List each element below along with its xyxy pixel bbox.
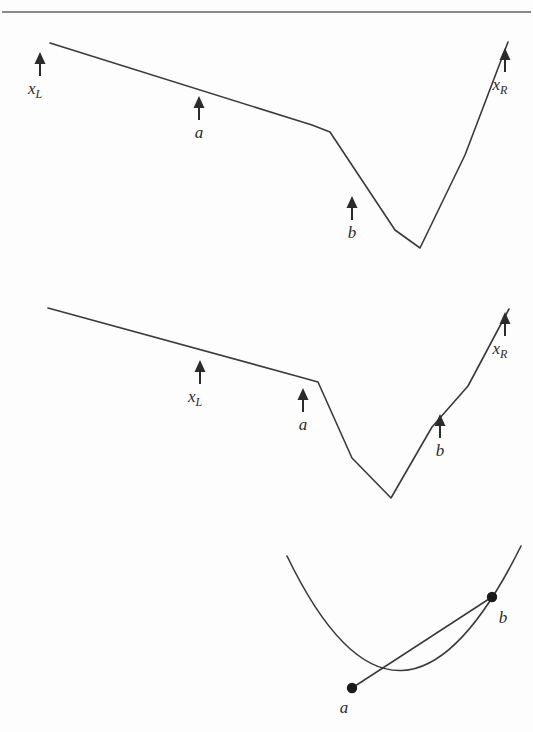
up-arrow-icon	[500, 312, 511, 324]
figure-canvas: xL a b xR	[0, 0, 533, 732]
panel3-label-b: b	[499, 608, 508, 627]
panel-convex-chord: a b	[287, 546, 521, 717]
panel1-label-a: a	[195, 123, 204, 142]
panel1-label-xr: xR	[492, 75, 509, 97]
panel2-arrow-xl	[195, 360, 206, 384]
up-arrow-icon	[347, 196, 358, 208]
panel1-arrow-xr	[500, 48, 511, 72]
panel-bracket-wide: xL a b xR	[27, 42, 511, 248]
panel2-arrow-xr	[500, 312, 511, 336]
up-arrow-icon	[195, 360, 206, 372]
panel3-convex-curve	[287, 546, 521, 671]
panel1-piecewise-curve	[50, 42, 508, 248]
up-arrow-icon	[298, 388, 309, 400]
panel3-chord-segment	[352, 597, 492, 688]
panel3-label-a: a	[340, 698, 349, 717]
panel2-label-xr: xR	[492, 339, 509, 361]
panel2-arrow-b	[435, 414, 446, 438]
panel2-label-xl: xL	[187, 387, 203, 409]
panel2-label-a: a	[299, 415, 308, 434]
panel1-arrow-xl	[35, 52, 46, 76]
figure-page: xL a b xR	[0, 0, 533, 732]
panel3-point-a-marker	[347, 683, 357, 693]
panel2-piecewise-curve	[48, 308, 509, 498]
panel-bracket-narrow: xL a b xR	[48, 308, 511, 498]
panel1-label-b: b	[348, 223, 357, 242]
panel2-label-b: b	[436, 441, 445, 460]
panel1-arrow-a	[194, 96, 205, 120]
panel2-arrow-a	[298, 388, 309, 412]
up-arrow-icon	[500, 48, 511, 60]
up-arrow-icon	[35, 52, 46, 64]
up-arrow-icon	[435, 414, 446, 426]
panel3-point-b-marker	[487, 592, 497, 602]
panel1-label-xl: xL	[27, 79, 43, 101]
panel1-arrow-b	[347, 196, 358, 220]
up-arrow-icon	[194, 96, 205, 108]
